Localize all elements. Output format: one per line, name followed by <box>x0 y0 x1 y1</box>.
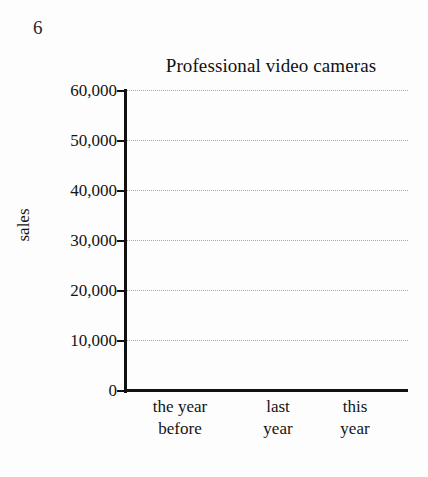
plot-area <box>126 91 408 391</box>
y-tick-label: 10,000 <box>17 332 117 349</box>
chart-title: Professional video cameras <box>126 56 416 77</box>
y-tick-label: 40,000 <box>17 182 117 199</box>
x-category-label-line: this <box>295 396 415 418</box>
page-number: 6 <box>33 18 43 37</box>
y-tick-label: 0 <box>17 382 117 399</box>
y-tick-label: 30,000 <box>17 232 117 249</box>
y-tick-label: 60,000 <box>17 82 117 99</box>
y-tick-label: 20,000 <box>17 282 117 299</box>
chart-page: { "page": { "number": "6", "background_c… <box>0 0 428 477</box>
y-tick-label: 50,000 <box>17 132 117 149</box>
x-category-label-line: year <box>295 418 415 440</box>
x-category-label: thisyear <box>295 396 415 440</box>
